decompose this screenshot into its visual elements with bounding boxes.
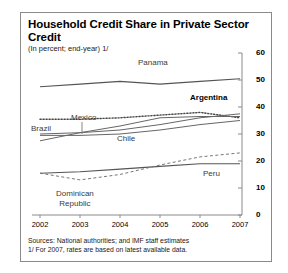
series-line-panama: [40, 79, 240, 87]
x-tick-label-2006: 2006: [183, 220, 217, 229]
footnote-sources: Sources: National authorities; and IMF s…: [28, 237, 268, 246]
y-tick-marks: [238, 53, 242, 215]
series-label-argentina: Argentina: [190, 93, 227, 102]
x-tick-label-2002: 2002: [23, 220, 57, 229]
series-label-dominican-republic-line1: Dominican: [56, 189, 94, 199]
series-label-brazil: Brazil: [31, 124, 51, 133]
chart-footnotes: Sources: National authorities; and IMF s…: [28, 237, 268, 254]
series-line-chile: [40, 117, 240, 141]
series-label-dominican-republic-line2: Republic: [56, 199, 94, 209]
x-tick-label-2007: 2007: [223, 220, 257, 229]
x-tick-label-2005: 2005: [143, 220, 177, 229]
series-label-mexico: Mexico: [71, 113, 96, 122]
x-tick-label-2004: 2004: [103, 220, 137, 229]
y-tick-label-50: 50: [256, 75, 274, 84]
series-label-peru: Peru: [203, 169, 220, 178]
chart-figure: Household Credit Share in Private Sector…: [0, 0, 288, 273]
footnote-note-1: 1/ For 2007, rates are based on latest a…: [28, 246, 268, 255]
series-line-argentina: [40, 112, 240, 119]
chart-title: Household Credit Share in Private Sector…: [28, 18, 258, 44]
y-tick-label-60: 60: [256, 48, 274, 57]
series-label-panama: Panama: [138, 58, 168, 67]
x-tick-label-2003: 2003: [63, 220, 97, 229]
series-label-dominican-republic: Dominican Republic: [56, 189, 94, 208]
y-tick-label-40: 40: [256, 102, 274, 111]
y-tick-label-30: 30: [256, 129, 274, 138]
y-tick-label-10: 10: [256, 183, 274, 192]
y-tick-label-0: 0: [256, 210, 274, 219]
series-label-chile: Chile: [117, 134, 135, 143]
y-tick-label-20: 20: [256, 156, 274, 165]
